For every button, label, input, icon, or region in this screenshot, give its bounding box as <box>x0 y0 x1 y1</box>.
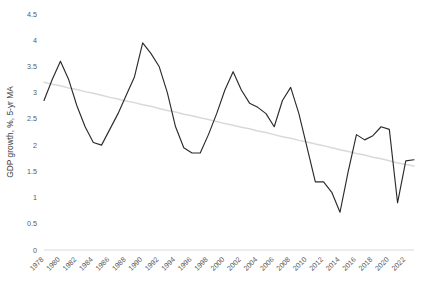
x-tick-label: 2004 <box>242 255 260 273</box>
x-tick-label: 1982 <box>61 255 79 273</box>
x-tick-label: 1988 <box>110 255 128 273</box>
x-tick-label: 1998 <box>192 255 210 273</box>
y-tick-label: 4.5 <box>27 10 37 19</box>
x-tick-label: 2008 <box>274 255 292 273</box>
trend-line-series <box>44 82 414 166</box>
gdp-growth-series <box>44 43 414 212</box>
x-tick-label: 1986 <box>94 255 112 273</box>
y-tick-label: 2.5 <box>27 114 37 123</box>
y-tick-label: 3.5 <box>27 62 37 71</box>
y-tick-label: 0 <box>33 246 37 255</box>
y-tick-label: 0.5 <box>27 219 37 228</box>
x-tick-label: 1990 <box>126 255 144 273</box>
y-tick-label: 4 <box>33 36 37 45</box>
x-tick-label: 2018 <box>357 255 375 273</box>
x-tick-label: 1994 <box>159 255 177 273</box>
x-tick-label: 2022 <box>390 255 408 273</box>
x-tick-label: 1980 <box>44 255 62 273</box>
x-tick-label: 1992 <box>143 255 161 273</box>
x-tick-label: 2020 <box>373 255 391 273</box>
y-tick-label: 1 <box>33 193 37 202</box>
chart-canvas: 00.511.522.533.544.5 1978198019821984198… <box>0 0 422 295</box>
x-tick-label: 2010 <box>291 255 309 273</box>
y-tick-label: 2 <box>33 141 37 150</box>
x-tick-label: 2014 <box>324 255 342 273</box>
gdp-growth-line-chart: 00.511.522.533.544.5 1978198019821984198… <box>0 0 422 295</box>
x-tick-label: 1996 <box>176 255 194 273</box>
x-tick-label: 2012 <box>307 255 325 273</box>
y-axis-tick-labels: 00.511.522.533.544.5 <box>27 10 37 255</box>
x-tick-label: 2016 <box>340 255 358 273</box>
x-tick-label: 2002 <box>225 255 243 273</box>
x-tick-label: 2000 <box>209 255 227 273</box>
y-tick-label: 3 <box>33 88 37 97</box>
x-tick-label: 1984 <box>77 255 95 273</box>
x-tick-label: 2006 <box>258 255 276 273</box>
y-tick-label: 1.5 <box>27 167 37 176</box>
x-axis-tick-labels: 1978198019821984198619881990199219941996… <box>28 255 407 273</box>
y-axis-title: GDP growth, %, 5-yr MA <box>5 86 15 178</box>
x-tick-label: 1978 <box>28 255 46 273</box>
